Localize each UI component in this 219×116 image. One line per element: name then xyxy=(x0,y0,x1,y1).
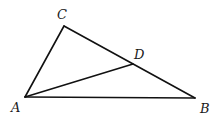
triangle-diagram: C D A B xyxy=(0,0,219,116)
label-c: C xyxy=(57,7,67,22)
label-b: B xyxy=(199,101,210,116)
segment-cb xyxy=(64,26,195,98)
label-d: D xyxy=(133,47,145,62)
label-a: A xyxy=(10,100,20,115)
segment-ab xyxy=(25,97,195,98)
